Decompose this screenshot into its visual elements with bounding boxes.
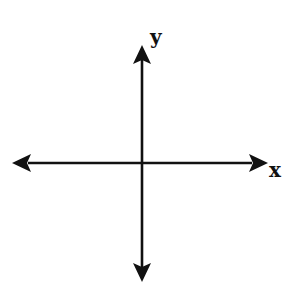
x-axis-label: x — [269, 158, 282, 182]
horizontal-axis — [12, 154, 268, 172]
y-axis-label: y — [149, 25, 163, 49]
axes-diagram: y x — [0, 0, 307, 295]
